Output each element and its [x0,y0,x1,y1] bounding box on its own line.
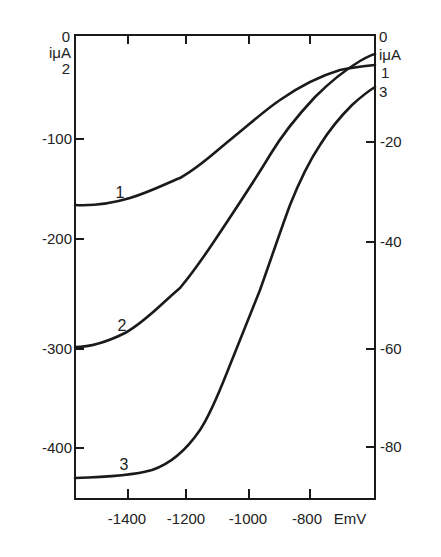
right-ticks [366,142,375,447]
right-tick-label: -40 [380,233,402,250]
right-tick-label: -60 [380,340,402,357]
plot-frame [75,35,375,499]
bottom-ticks [128,489,310,499]
left-axis-zero: 0 [62,28,70,45]
left-tick-label: -300 [42,340,72,357]
x-tick-label: -1000 [229,510,267,527]
right-axis-curve-ref-1: 1 [381,64,389,81]
left-tick-label: -100 [42,130,72,147]
x-axis-unit: EmV [334,510,367,527]
left-tick-label: -200 [42,230,72,247]
right-axis-curve-ref-3: 3 [379,83,387,100]
right-axis-unit: iμA [379,46,401,63]
x-tick-label: -1200 [167,510,205,527]
left-ticks [75,139,84,448]
polarogram-chart: 0 iμA 2 -100 -200 -300 -400 0 iμA 1 3 -2… [0,0,441,557]
x-tick-label: -1400 [108,510,146,527]
left-axis-unit: iμA [49,44,71,61]
left-tick-label: -400 [42,439,72,456]
curve-1-label: 1 [116,184,125,201]
right-tick-label: -80 [380,438,402,455]
curve-2-label: 2 [118,317,127,334]
left-axis-curve-ref: 2 [62,60,70,77]
top-ticks [128,35,310,44]
right-axis-zero: 0 [379,28,387,45]
right-tick-label: -20 [380,133,402,150]
curve-3-label: 3 [120,456,129,473]
x-tick-label: -800 [292,510,322,527]
